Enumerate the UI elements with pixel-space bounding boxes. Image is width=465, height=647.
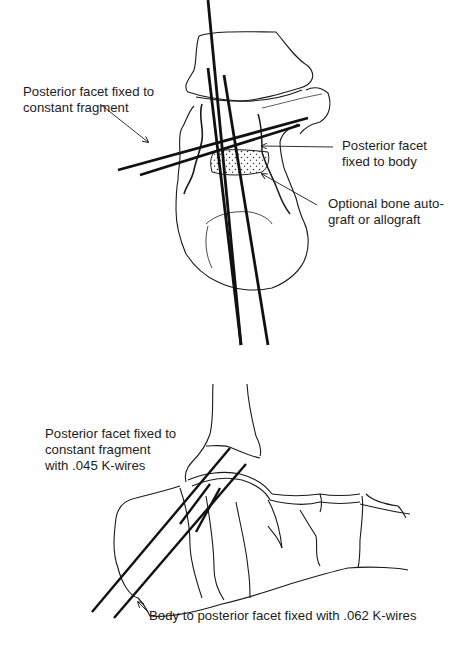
label-body-facet-062-kwires: Body to posterior facet fixed with .062 … <box>149 608 417 624</box>
label-posterior-facet-body: Posterior facet fixed to body <box>342 138 427 170</box>
calcaneus-outline <box>176 106 308 290</box>
label-bone-graft: Optional bone auto- graft or allograft <box>328 196 444 228</box>
label-posterior-facet-045-kwires: Posterior facet fixed to constant fragme… <box>45 426 176 474</box>
calcaneus-lateral-outline <box>114 486 408 616</box>
label-posterior-facet-constant-fragment: Posterior facet fixed to constant fragme… <box>23 84 154 116</box>
lateral-view-panel <box>114 384 410 616</box>
talus-outline <box>186 32 313 101</box>
